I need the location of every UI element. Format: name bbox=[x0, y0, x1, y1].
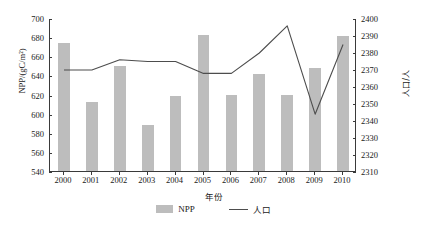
plot-area bbox=[49, 19, 356, 172]
y2-axis-tick-mark bbox=[353, 36, 356, 37]
y-axis-tick-label: 660 bbox=[31, 53, 44, 61]
y-axis-tick-label: 640 bbox=[31, 72, 44, 80]
y-axis-tick-mark bbox=[49, 172, 52, 173]
y2-axis-tick-mark bbox=[353, 138, 356, 139]
x-axis-tick-mark bbox=[175, 172, 176, 175]
x-axis-tick-mark bbox=[63, 172, 64, 175]
y-axis-tick-mark bbox=[49, 115, 52, 116]
x-axis-tick-mark bbox=[203, 172, 204, 175]
y-axis-tick-mark bbox=[49, 38, 52, 39]
plot-canvas bbox=[50, 19, 355, 171]
chart-legend: NPP 人口 bbox=[0, 203, 427, 215]
y-axis-tick-mark bbox=[49, 19, 52, 20]
y-axis-tick-mark bbox=[49, 134, 52, 135]
y-axis-tick-mark bbox=[49, 153, 52, 154]
legend-item-population: 人口 bbox=[229, 203, 271, 215]
y2-axis-tick-label: 2310 bbox=[361, 168, 378, 176]
y2-axis-tick-mark bbox=[353, 155, 356, 156]
x-axis-tick-mark bbox=[314, 172, 315, 175]
x-axis-tick-mark bbox=[230, 172, 231, 175]
y-axis-tick-label: 680 bbox=[31, 34, 44, 42]
left-axis-title: NPP/(gC/m²) bbox=[17, 16, 27, 126]
y2-axis-tick-label: 2340 bbox=[361, 117, 378, 125]
y2-axis-tick-mark bbox=[353, 53, 356, 54]
population-line bbox=[64, 26, 343, 114]
y2-axis-tick-label: 2330 bbox=[361, 134, 378, 142]
population-line-svg bbox=[50, 19, 357, 172]
y-axis-tick-label: 600 bbox=[31, 111, 44, 119]
chart-figure: NPP/(gC/m²) 人口/人 年份 70068066064062060058… bbox=[0, 0, 427, 230]
y-axis-tick-label: 620 bbox=[31, 92, 44, 100]
legend-label-npp: NPP bbox=[178, 204, 195, 214]
x-axis-title: 年份 bbox=[0, 190, 427, 202]
y2-axis-tick-label: 2360 bbox=[361, 83, 378, 91]
right-axis-title: 人口/人 bbox=[400, 54, 411, 114]
x-axis-tick-mark bbox=[147, 172, 148, 175]
y2-axis-tick-mark bbox=[353, 87, 356, 88]
x-axis-tick-mark bbox=[91, 172, 92, 175]
y2-axis-tick-label: 2320 bbox=[361, 151, 378, 159]
y-axis-tick-label: 560 bbox=[31, 149, 44, 157]
y2-axis-tick-label: 2370 bbox=[361, 66, 378, 74]
x-axis-tick-mark bbox=[342, 172, 343, 175]
y-axis-tick-label: 580 bbox=[31, 130, 44, 138]
x-axis-tick-mark bbox=[119, 172, 120, 175]
y-axis-tick-mark bbox=[49, 96, 52, 97]
y-axis-tick-mark bbox=[49, 76, 52, 77]
x-axis-tick-mark bbox=[258, 172, 259, 175]
x-axis-tick-mark bbox=[286, 172, 287, 175]
y2-axis-tick-mark bbox=[353, 104, 356, 105]
y-axis-tick-label: 700 bbox=[31, 15, 44, 23]
y2-axis-tick-mark bbox=[353, 172, 356, 173]
y2-axis-tick-label: 2390 bbox=[361, 32, 378, 40]
y2-axis-tick-mark bbox=[353, 121, 356, 122]
y2-axis-tick-label: 2350 bbox=[361, 100, 378, 108]
legend-label-population: 人口 bbox=[253, 203, 271, 215]
x-axis-tick-label: 2010 bbox=[322, 175, 362, 185]
y2-axis-tick-mark bbox=[353, 19, 356, 20]
y-axis-tick-mark bbox=[49, 57, 52, 58]
y2-axis-tick-label: 2380 bbox=[361, 49, 378, 57]
legend-bar-swatch-icon bbox=[156, 205, 173, 213]
legend-line-swatch-icon bbox=[229, 209, 248, 210]
y2-axis-tick-mark bbox=[353, 70, 356, 71]
legend-item-npp: NPP bbox=[156, 204, 195, 214]
y2-axis-tick-label: 2400 bbox=[361, 15, 378, 23]
